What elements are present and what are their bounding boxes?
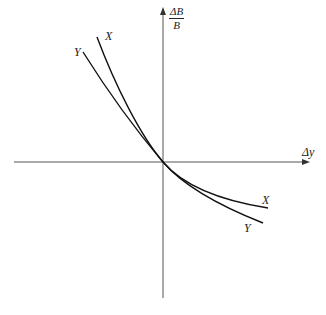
y-axis-label-numerator: ΔB <box>169 6 184 19</box>
x-axis-label: Δy <box>302 146 314 158</box>
curve-y <box>83 52 263 223</box>
diagram-canvas <box>0 0 326 315</box>
curve-y-label-bottom: Y <box>244 222 251 234</box>
y-axis-label-denominator: B <box>169 19 184 31</box>
x-axis-arrow-icon <box>302 159 310 165</box>
y-axis-arrow-icon <box>160 7 166 15</box>
curve-y-label-top: Y <box>74 46 81 58</box>
curve-x-label-top: X <box>105 30 112 42</box>
curve-x <box>97 37 268 208</box>
curve-x-label-bottom: X <box>262 194 269 206</box>
y-axis-label: ΔB B <box>169 6 184 31</box>
